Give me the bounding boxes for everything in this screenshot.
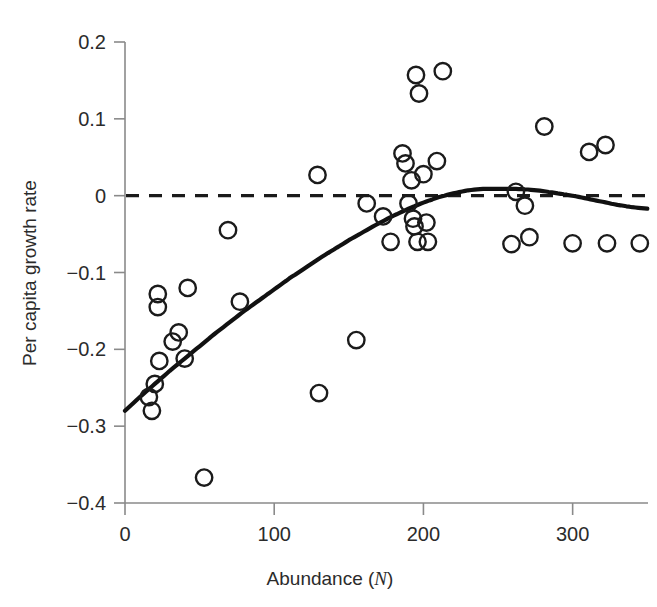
data-point <box>420 234 436 250</box>
data-point <box>382 234 398 250</box>
data-point <box>632 235 648 251</box>
data-point <box>348 332 364 348</box>
fitted-growth-curve <box>125 189 647 411</box>
x-tick-label-2: 200 <box>407 523 440 545</box>
y-axis-ticks <box>114 42 125 503</box>
data-point <box>311 385 327 401</box>
data-point <box>581 144 597 160</box>
data-point <box>536 118 552 134</box>
data-point <box>196 469 212 485</box>
x-tick-label-3: 300 <box>556 523 589 545</box>
data-point <box>521 229 537 245</box>
data-point <box>151 353 167 369</box>
x-axis-title-close: ) <box>387 568 393 589</box>
data-point <box>411 85 427 101</box>
data-point <box>599 235 615 251</box>
x-axis-ticks <box>125 503 573 515</box>
y-tick-label-5: −0.3 <box>67 415 106 437</box>
x-axis-title: Abundance (N) <box>267 568 394 589</box>
chart-figure: 0.20.10−0.1−0.2−0.3−0.4 0100200300 Per c… <box>0 0 657 607</box>
scatter-plot: 0.20.10−0.1−0.2−0.3−0.4 0100200300 Per c… <box>0 0 657 607</box>
data-point <box>408 67 424 83</box>
y-tick-label-1: 0.1 <box>78 108 106 130</box>
data-point <box>397 155 413 171</box>
data-point <box>359 195 375 211</box>
data-point <box>232 294 248 310</box>
y-tick-label-0: 0.2 <box>78 31 106 53</box>
x-axis-title-text: Abundance ( <box>267 568 375 589</box>
x-tick-label-0: 0 <box>119 523 130 545</box>
y-tick-label-4: −0.2 <box>67 338 106 360</box>
data-point <box>503 236 519 252</box>
data-point <box>597 137 613 153</box>
y-axis-title: Per capita growth rate <box>19 180 40 366</box>
data-points <box>141 63 648 486</box>
data-point <box>220 222 236 238</box>
y-tick-label-6: −0.4 <box>67 492 106 514</box>
x-axis-tick-labels: 0100200300 <box>119 523 589 545</box>
data-point <box>309 167 325 183</box>
y-tick-label-2: 0 <box>95 185 106 207</box>
data-point <box>517 198 533 214</box>
data-point <box>394 145 410 161</box>
y-axis-tick-labels: 0.20.10−0.1−0.2−0.3−0.4 <box>67 31 106 514</box>
data-point <box>429 153 445 169</box>
data-point <box>435 63 451 79</box>
data-point <box>180 280 196 296</box>
data-point <box>564 235 580 251</box>
y-tick-label-3: −0.1 <box>67 262 106 284</box>
x-tick-label-1: 100 <box>258 523 291 545</box>
